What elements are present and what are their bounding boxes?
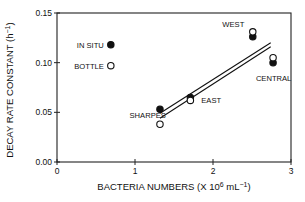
open-circle-marker bbox=[270, 55, 276, 61]
site-label: EAST bbox=[201, 96, 221, 105]
legend-label: IN SITU bbox=[77, 41, 104, 50]
regression-lines bbox=[160, 43, 271, 118]
legend-label: BOTTLE bbox=[74, 62, 104, 71]
x-tick-label: 0 bbox=[55, 166, 60, 176]
site-label: WEST bbox=[222, 20, 244, 29]
legend-filled-circle-icon bbox=[108, 42, 114, 48]
y-tick-label: 0.00 bbox=[35, 157, 52, 167]
x-tick-label: 3 bbox=[289, 166, 294, 176]
y-tick-label: 0.05 bbox=[35, 107, 52, 117]
site-label: CENTRAL bbox=[256, 74, 291, 83]
regression-line bbox=[160, 47, 271, 119]
y-tick-label: 0.10 bbox=[35, 58, 52, 68]
open-circle-marker bbox=[157, 121, 163, 127]
scatter-chart: 01230.000.050.100.15 SHARPESEASTWESTCENT… bbox=[0, 0, 305, 202]
y-axis-title: DECAY RATE CONSTANT (h−1) bbox=[4, 22, 16, 157]
x-axis-title: BACTERIA NUMBERS (X 106 mL−1) bbox=[97, 181, 250, 193]
open-circle-marker bbox=[250, 29, 256, 35]
open-circle-marker bbox=[187, 97, 193, 103]
site-labels: SHARPESEASTWESTCENTRAL bbox=[130, 20, 292, 120]
x-tick-label: 2 bbox=[211, 166, 216, 176]
legend-open-circle-icon bbox=[108, 62, 114, 68]
site-label: SHARPES bbox=[130, 111, 166, 120]
x-tick-label: 1 bbox=[133, 166, 138, 176]
y-tick-label: 0.15 bbox=[35, 8, 52, 18]
legend: IN SITUBOTTLE bbox=[74, 41, 114, 71]
